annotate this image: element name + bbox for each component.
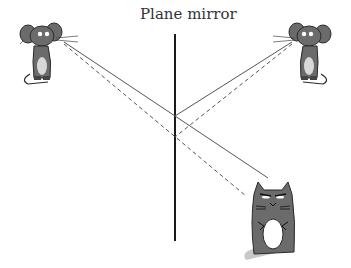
ray-mirror-to-cat (175, 116, 268, 178)
cat-icon (244, 182, 294, 260)
ray-left-mouse-to-cat-dashed (64, 44, 246, 196)
ray-right-mouse-to-mirror-dashed (175, 44, 292, 137)
right-mouse-icon (273, 23, 331, 84)
ray-right-mouse-to-mirror (175, 42, 292, 116)
light-rays (64, 42, 292, 196)
diagram-canvas (0, 0, 351, 268)
left-mouse-icon (20, 23, 78, 84)
ray-left-mouse-to-mirror (64, 42, 175, 116)
